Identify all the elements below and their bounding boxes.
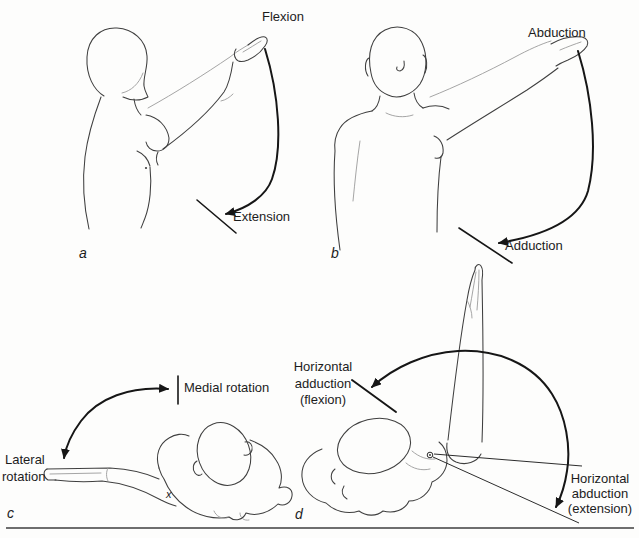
panel-c: x Medial rotation Lateral rotation c xyxy=(2,376,292,521)
reference-line-upper xyxy=(434,454,582,466)
ear-mark xyxy=(331,469,335,484)
head-outline xyxy=(370,27,426,97)
rotation-arc xyxy=(64,389,168,458)
thumb-line xyxy=(467,300,472,318)
panel-a-caption: a xyxy=(79,245,87,261)
clavicle-line xyxy=(386,113,413,117)
neck-left-line xyxy=(372,96,380,111)
neck-fold-line xyxy=(406,463,430,470)
panel-d-caption: d xyxy=(295,506,304,522)
hand-outline xyxy=(235,37,268,62)
deltoid-line xyxy=(146,115,169,151)
panel-d: Horizontal adduction (flexion) Horizonta… xyxy=(294,265,632,523)
torso-right-outline xyxy=(159,440,292,520)
reference-line-lower xyxy=(433,457,579,523)
arm-bottom-line xyxy=(163,62,233,149)
flexion-label: Flexion xyxy=(262,9,304,24)
finger-line xyxy=(470,272,476,307)
wrist-line xyxy=(107,468,109,481)
pec-line xyxy=(137,151,150,166)
hand-tip xyxy=(44,469,56,480)
lateral-rotation-label-line2: rotation xyxy=(2,469,45,484)
head-top-view xyxy=(332,411,417,481)
extension-label: Extension xyxy=(233,209,290,224)
chest-front-line xyxy=(141,167,151,228)
flexion-extension-arc xyxy=(226,49,278,214)
right-side-line xyxy=(437,157,441,232)
medial-rotation-label: Medial rotation xyxy=(184,380,269,395)
finger-line xyxy=(50,473,101,474)
figure-c-body xyxy=(44,415,292,520)
left-ear xyxy=(365,58,369,76)
horizontal-adduction-label-line2: adduction xyxy=(295,376,351,391)
horizontal-abduction-label-line2: abduction xyxy=(572,486,628,501)
cheek-line xyxy=(122,73,143,93)
abduction-adduction-arc xyxy=(499,51,593,243)
head-outline xyxy=(87,28,148,100)
horizontal-adduction-label-line1: Horizontal xyxy=(294,359,353,374)
armpit-line xyxy=(434,136,443,158)
armpit-line xyxy=(157,152,159,165)
neck-front-line xyxy=(134,99,141,115)
pivot-center-dot xyxy=(429,454,431,456)
panel-a: Flexion Extension a xyxy=(79,9,304,261)
horizontal-motion-arc xyxy=(372,351,568,507)
left-shoulder-side-line xyxy=(334,111,372,250)
shoulder-round xyxy=(447,443,481,464)
abduction-label: Abduction xyxy=(528,25,586,40)
arm-bottom-line xyxy=(447,68,558,140)
back-inner-line xyxy=(353,141,360,201)
finger-line xyxy=(477,270,479,310)
nipple-mark xyxy=(145,167,147,169)
extension-tick xyxy=(197,200,236,233)
arm-top-line xyxy=(148,45,248,108)
horizontal-adduction-label-line3: (flexion) xyxy=(300,392,346,407)
horizontal-abduction-label-line3: (extension) xyxy=(568,501,632,516)
panel-b-caption: b xyxy=(331,245,339,261)
figure-canvas: Flexion Extension a Abduction Adduction xyxy=(0,0,639,538)
figure-b-body xyxy=(334,27,588,250)
arm-top-line xyxy=(430,41,551,97)
neck-right-line xyxy=(414,93,423,108)
trapezius-line xyxy=(423,106,449,109)
finger-line xyxy=(560,42,581,50)
jaw-mark xyxy=(342,486,347,499)
panel-b: Abduction Adduction b xyxy=(331,25,593,263)
left-ear xyxy=(193,461,202,475)
body-fold-line xyxy=(240,513,249,520)
nose-mark xyxy=(397,61,405,71)
elbow-crease xyxy=(221,94,233,101)
hand-outline xyxy=(551,37,588,66)
arm-bottom-line xyxy=(55,480,176,506)
lateral-rotation-label-line1: Lateral xyxy=(5,452,45,467)
figure-a-body xyxy=(84,28,268,229)
horizontal-abduction-label-line1: Horizontal xyxy=(571,471,630,486)
back-line xyxy=(84,97,101,229)
shoulder-x-marker: x xyxy=(165,488,172,500)
body-fold-line xyxy=(214,511,227,518)
panel-c-caption: c xyxy=(7,505,14,521)
shoulders-outline xyxy=(157,434,189,468)
adduction-label: Adduction xyxy=(505,238,563,253)
torso-outline xyxy=(302,442,447,515)
shoulder-motion-diagram: Flexion Extension a Abduction Adduction xyxy=(0,0,639,538)
